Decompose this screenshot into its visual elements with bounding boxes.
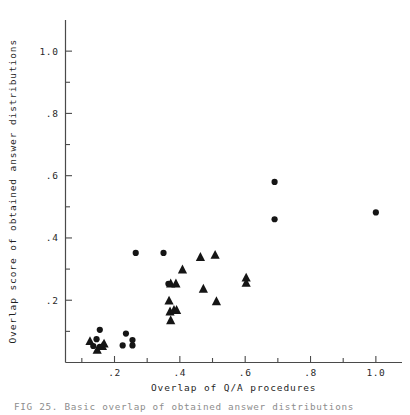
y-axis-tick-label: .2 (46, 295, 59, 306)
x-axis-tick-label: .8 (304, 367, 317, 378)
scatter-plot-canvas: .2.4.6.81.0.2.4.6.81.0Overlap of Q/A pro… (0, 0, 410, 415)
data-point-triangle (164, 296, 173, 305)
y-axis-title: Overlap score of obtained answer distrib… (7, 39, 18, 344)
data-point-circle (120, 342, 126, 348)
data-point-triangle (99, 339, 108, 348)
x-axis-tick-label: .6 (239, 367, 252, 378)
data-point-circle (97, 327, 103, 333)
y-axis-tick-label: .6 (46, 170, 59, 181)
data-point-triangle (212, 296, 221, 305)
figure-scatter-plot: .2.4.6.81.0.2.4.6.81.0Overlap of Q/A pro… (0, 0, 410, 415)
x-axis-tick-label: .2 (108, 367, 121, 378)
data-point-circle (129, 342, 135, 348)
data-point-triangle (199, 284, 208, 293)
data-point-triangle (166, 315, 175, 324)
data-point-circle (271, 216, 277, 222)
data-point-circle (373, 209, 379, 215)
data-point-circle (129, 337, 135, 343)
x-axis-tick-label: 1.0 (366, 367, 385, 378)
data-point-circle (93, 336, 99, 342)
figure-caption: FIG 25. Basic overlap of obtained answer… (14, 401, 410, 412)
data-point-triangle (211, 250, 220, 259)
data-point-circle (271, 179, 277, 185)
x-axis-title: Overlap of Q/A procedures (151, 382, 317, 393)
data-point-circle (123, 330, 129, 336)
y-axis-tick-label: 1.0 (40, 46, 59, 57)
y-axis-tick-label: .4 (46, 232, 59, 243)
data-point-circle (160, 250, 166, 256)
data-point-triangle (178, 265, 187, 274)
data-point-circle (133, 250, 139, 256)
y-axis-tick-label: .8 (46, 108, 59, 119)
x-axis-tick-label: .4 (174, 367, 187, 378)
data-point-triangle (85, 336, 94, 345)
data-point-triangle (196, 252, 205, 261)
